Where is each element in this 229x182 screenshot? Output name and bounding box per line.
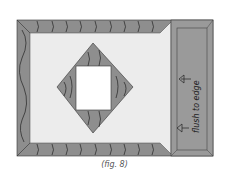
figure-diagram: flush to edge [0,0,229,182]
center-window [76,66,111,110]
figure-caption: (fig. 8) [0,160,229,169]
annotation-text: flush to edge [192,80,201,133]
